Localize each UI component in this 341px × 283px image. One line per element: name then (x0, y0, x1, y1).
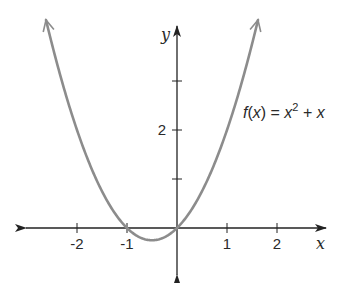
y-ticks: 2 (158, 81, 182, 179)
x-tick-label: 2 (273, 235, 281, 252)
y-tick-label: 2 (158, 121, 166, 138)
eq-equals: = (266, 104, 284, 121)
eq-plus: + (298, 104, 316, 121)
x-tick-label: -1 (120, 235, 133, 252)
function-label: f(x) = x2 + x (243, 101, 326, 121)
x-tick-label: -2 (70, 235, 83, 252)
function-plot: -2-112 x 2 y f(x) = x2 + x (0, 0, 341, 283)
y-axis-label: y (160, 25, 171, 44)
parabola-curve (46, 20, 258, 240)
parabola-series (43, 20, 261, 240)
eq-x-last: x (316, 104, 326, 121)
x-tick-label: 1 (223, 235, 231, 252)
x-axis-label: x (316, 234, 325, 253)
